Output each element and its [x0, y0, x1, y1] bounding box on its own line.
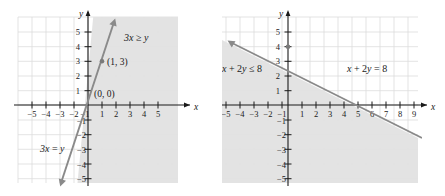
left-origin-label: (0, 0): [94, 89, 115, 100]
left-line-arrow-down: [59, 178, 66, 186]
left-y-axis-label: y: [78, 9, 84, 19]
left-graph-svg: −5 −4 −3 −2 −1 1 2 3 4 5 5 4 3 2 1 −1 −2…: [0, 0, 222, 196]
x-tick-label: 3: [128, 109, 132, 119]
y-tick-label: 2: [276, 71, 280, 81]
x-tick-label: 1: [100, 109, 104, 119]
x-tick-label: 3: [328, 109, 332, 119]
left-graph-panel: −5 −4 −3 −2 −1 1 2 3 4 5 5 4 3 2 1 −1 −2…: [0, 0, 222, 196]
y-tick-label: 2: [76, 71, 80, 81]
x-tick-label: 7: [384, 109, 388, 119]
left-equation-label: 3x = y: [39, 143, 65, 154]
figure-container: −5 −4 −3 −2 −1 1 2 3 4 5 5 4 3 2 1 −1 −2…: [0, 0, 445, 196]
x-tick-label: 5: [156, 109, 160, 119]
x-tick-label: 8: [398, 109, 402, 119]
right-inequality-label: x + 2y ≤ 8: [222, 63, 262, 74]
y-tick-label: −3: [77, 145, 86, 155]
right-x-axis-label: x: [430, 102, 436, 112]
y-tick-label: −1: [277, 116, 286, 126]
x-tick-label: 2: [314, 109, 318, 119]
right-y-axis-label: y: [278, 9, 284, 19]
x-tick-label: −5: [27, 109, 36, 119]
right-graph-svg: −5 −4 −3 −2 −1 1 2 3 4 5 6 7 8 9 5 4 3 2: [222, 0, 445, 196]
x-tick-label: 1: [300, 109, 304, 119]
right-graph-panel: −5 −4 −3 −2 −1 1 2 3 4 5 6 7 8 9 5 4 3 2: [222, 0, 445, 196]
left-inequality-label: 3x ≥ y: [123, 32, 149, 43]
right-equation-label: x + 2y = 8: [346, 63, 387, 74]
x-tick-label: −3: [55, 109, 64, 119]
x-tick-label: 2: [114, 109, 118, 119]
y-tick-label: −5: [277, 174, 286, 184]
y-tick-label: 5: [76, 27, 80, 37]
y-tick-label: −2: [277, 130, 286, 140]
y-tick-label: 3: [76, 56, 80, 66]
y-tick-label: −4: [277, 160, 287, 170]
y-tick-label: −4: [77, 160, 87, 170]
right-x-axis-arrow: [421, 103, 427, 108]
x-tick-label: −5: [222, 109, 231, 119]
right-intercept-point-marker: [286, 44, 291, 49]
left-x-axis-label: x: [193, 102, 199, 112]
left-x-axis-arrow: [184, 103, 190, 108]
x-tick-label: −4: [41, 109, 51, 119]
right-y-axis-arrow: [286, 10, 291, 16]
x-tick-label: −3: [249, 109, 258, 119]
y-tick-label: −5: [77, 174, 86, 184]
y-tick-label: 1: [276, 86, 280, 96]
left-test-point-marker: [100, 59, 105, 64]
y-tick-label: −3: [277, 145, 286, 155]
y-tick-label: 1: [76, 86, 80, 96]
x-tick-label: −2: [263, 109, 272, 119]
x-tick-label: 5: [356, 109, 360, 119]
x-tick-label: −4: [235, 109, 245, 119]
left-y-axis-arrow: [86, 10, 91, 16]
x-tick-label: 9: [412, 109, 416, 119]
left-point-label: (1, 3): [107, 57, 128, 68]
y-tick-label: 5: [276, 27, 280, 37]
